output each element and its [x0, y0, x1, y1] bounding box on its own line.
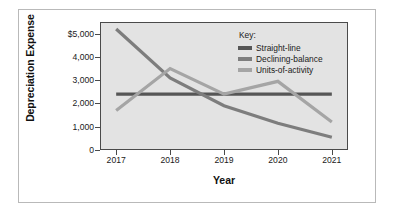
x-axis-title: Year — [100, 174, 348, 186]
y-tick-label: 1,000 — [48, 122, 94, 132]
x-tick-label: 2020 — [256, 155, 300, 165]
y-tick-mark — [95, 150, 100, 151]
legend-item: Declining-balance — [238, 53, 323, 64]
x-tick-label: 2021 — [310, 155, 354, 165]
x-tick-label: 2018 — [148, 155, 192, 165]
x-tick-label: 2017 — [94, 155, 138, 165]
legend-item: Units-of-activity — [238, 64, 323, 75]
legend-swatch-icon — [238, 68, 252, 72]
legend-item-label: Declining-balance — [256, 54, 323, 64]
legend-item: Straight-line — [238, 42, 323, 53]
legend-item-label: Units-of-activity — [256, 65, 313, 75]
x-tick-mark — [224, 150, 225, 155]
y-tick-mark — [95, 34, 100, 35]
x-tick-mark — [170, 150, 171, 155]
legend-entries: Straight-lineDeclining-balanceUnits-of-a… — [238, 42, 323, 75]
y-tick-label: 2,000 — [48, 98, 94, 108]
x-tick-mark — [332, 150, 333, 155]
legend-title: Key: — [238, 30, 323, 40]
x-tick-mark — [116, 150, 117, 155]
y-tick-mark — [95, 80, 100, 81]
legend-swatch-icon — [238, 46, 252, 50]
y-axis-title: Depreciation Expense — [24, 8, 36, 128]
legend-swatch-icon — [238, 57, 252, 61]
x-tick-mark — [278, 150, 279, 155]
y-axis-tick-labels: 01,0002,0003,0004,000$5,000 — [46, 22, 94, 150]
y-tick-label: 3,000 — [48, 75, 94, 85]
chart-figure: 01,0002,0003,0004,000$5,000 201720182019… — [0, 0, 394, 213]
legend-item-label: Straight-line — [256, 43, 301, 53]
y-tick-mark — [95, 57, 100, 58]
y-tick-label: 4,000 — [48, 52, 94, 62]
y-tick-mark — [95, 127, 100, 128]
y-tick-label: $5,000 — [48, 29, 94, 39]
x-tick-label: 2019 — [202, 155, 246, 165]
y-tick-label: 0 — [48, 145, 94, 155]
y-tick-mark — [95, 103, 100, 104]
legend: Key: Straight-lineDeclining-balanceUnits… — [238, 30, 323, 75]
